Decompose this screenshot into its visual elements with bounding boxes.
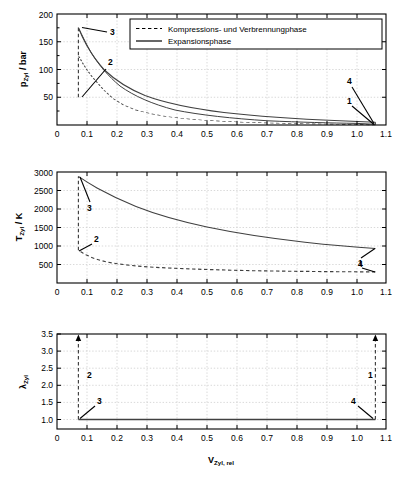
- svg-text:0.2: 0.2: [111, 129, 123, 139]
- svg-text:1: 1: [368, 370, 373, 380]
- svg-text:3: 3: [110, 27, 115, 37]
- annotation-2: 2: [87, 370, 92, 380]
- chart-panel-temperature: 500 1000 1500 2000 2500 3000 0 0.1 0.2 0…: [0, 160, 404, 318]
- chart-panel-lambda: 1.0 1.5 2.0 2.5 3.0 3.5 0 0.1 0.2 0.3 0.…: [0, 318, 404, 481]
- x-tick-labels: 0 0.1 0.2 0.3 0.4 0.5 0.6 0.7 0.8 0.9 1.…: [55, 433, 393, 443]
- svg-text:0.8: 0.8: [291, 433, 303, 443]
- svg-text:0.3: 0.3: [141, 433, 153, 443]
- svg-text:0.1: 0.1: [81, 433, 93, 443]
- svg-text:TZyl / K: TZyl / K: [14, 212, 25, 241]
- svg-text:λZyl: λZyl: [18, 375, 29, 389]
- annotation-3: 3: [80, 177, 92, 213]
- svg-text:1.0: 1.0: [351, 129, 363, 139]
- svg-text:1.1: 1.1: [380, 129, 392, 139]
- svg-text:3000: 3000: [34, 168, 53, 178]
- svg-text:0.7: 0.7: [261, 433, 273, 443]
- legend-label-0: Kompressions- und Verbrennungphase: [168, 25, 307, 34]
- svg-text:0.6: 0.6: [231, 433, 243, 443]
- svg-text:2.5: 2.5: [41, 363, 53, 373]
- svg-text:1.0: 1.0: [41, 415, 53, 425]
- svg-text:100: 100: [39, 65, 53, 75]
- svg-text:2500: 2500: [34, 186, 53, 196]
- svg-text:0.9: 0.9: [321, 129, 333, 139]
- lambda-chart-svg: 1.0 1.5 2.0 2.5 3.0 3.5 0 0.1 0.2 0.3 0.…: [0, 318, 404, 481]
- svg-text:0.2: 0.2: [111, 287, 123, 297]
- svg-text:0.5: 0.5: [201, 287, 213, 297]
- svg-text:1000: 1000: [34, 241, 53, 251]
- series-expansion: [78, 176, 375, 248]
- svg-text:50: 50: [44, 92, 54, 102]
- svg-text:0.9: 0.9: [321, 287, 333, 297]
- chart-panel-pressure: 50 100 150 200 0 0.1 0.2 0.3 0.4 0.5 0.6…: [0, 0, 404, 160]
- svg-text:3: 3: [97, 396, 102, 406]
- svg-text:pZyl / bar: pZyl / bar: [18, 51, 29, 87]
- svg-text:1: 1: [347, 96, 352, 106]
- plot-frame: [57, 334, 386, 429]
- annotation-1: 1: [358, 258, 375, 272]
- y-axis-label-pressure: pZyl / bar: [18, 51, 29, 87]
- svg-text:2000: 2000: [34, 204, 53, 214]
- svg-text:0: 0: [55, 129, 60, 139]
- svg-text:1.0: 1.0: [351, 287, 363, 297]
- svg-text:150: 150: [39, 37, 53, 47]
- x-axis-label: VZyl, rel: [208, 455, 234, 466]
- svg-text:0.5: 0.5: [201, 433, 213, 443]
- y-tick-labels: 500 1000 1500 2000 2500 3000: [34, 168, 53, 270]
- svg-text:0.1: 0.1: [81, 129, 93, 139]
- svg-text:500: 500: [39, 260, 53, 270]
- legend: Kompressions- und Verbrennungphase Expan…: [130, 19, 382, 49]
- pressure-chart-svg: 50 100 150 200 0 0.1 0.2 0.3 0.4 0.5 0.6…: [0, 0, 404, 160]
- y-axis-label-lambda: λZyl: [18, 375, 29, 389]
- y-tick-labels: 1.0 1.5 2.0 2.5 3.0 3.5: [41, 329, 53, 425]
- svg-text:0.6: 0.6: [231, 287, 243, 297]
- svg-text:1.1: 1.1: [380, 433, 392, 443]
- svg-text:0.2: 0.2: [111, 433, 123, 443]
- y-axis-label-temperature: TZyl / K: [14, 212, 25, 241]
- annotation-2: 2: [79, 234, 99, 251]
- svg-text:0.1: 0.1: [81, 287, 93, 297]
- svg-text:0.7: 0.7: [261, 287, 273, 297]
- svg-text:1.1: 1.1: [380, 287, 392, 297]
- svg-text:0.3: 0.3: [141, 287, 153, 297]
- svg-text:1.5: 1.5: [41, 397, 53, 407]
- svg-text:0: 0: [55, 287, 60, 297]
- svg-text:2: 2: [108, 57, 113, 67]
- svg-text:0.4: 0.4: [171, 433, 183, 443]
- svg-text:4: 4: [347, 76, 352, 86]
- svg-text:0.3: 0.3: [141, 129, 153, 139]
- svg-text:1500: 1500: [34, 223, 53, 233]
- svg-text:2.0: 2.0: [41, 380, 53, 390]
- series-compression-combustion: [76, 335, 379, 420]
- svg-text:0.9: 0.9: [321, 433, 333, 443]
- svg-text:3.0: 3.0: [41, 346, 53, 356]
- svg-text:2: 2: [87, 370, 92, 380]
- svg-text:1.0: 1.0: [351, 433, 363, 443]
- svg-text:0.8: 0.8: [291, 129, 303, 139]
- temperature-chart-svg: 500 1000 1500 2000 2500 3000 0 0.1 0.2 0…: [0, 160, 404, 318]
- svg-text:2: 2: [94, 234, 99, 244]
- engine-cycle-figure: 50 100 150 200 0 0.1 0.2 0.3 0.4 0.5 0.6…: [0, 0, 404, 481]
- svg-text:3.5: 3.5: [41, 329, 53, 339]
- annotation-3: 3: [80, 396, 102, 419]
- svg-text:3: 3: [87, 203, 92, 213]
- svg-text:0.6: 0.6: [231, 129, 243, 139]
- legend-label-1: Expansionsphase: [168, 37, 232, 46]
- svg-text:0: 0: [55, 433, 60, 443]
- svg-text:200: 200: [39, 10, 53, 20]
- x-tick-labels: 0 0.1 0.2 0.3 0.4 0.5 0.6 0.7 0.8 0.9 1.…: [55, 129, 393, 139]
- y-tick-labels: 50 100 150 200: [39, 10, 53, 103]
- svg-text:4: 4: [351, 396, 356, 406]
- svg-text:0.8: 0.8: [291, 287, 303, 297]
- annotation-4: 4: [351, 396, 373, 419]
- annotation-1: 1: [368, 370, 373, 380]
- svg-text:0.5: 0.5: [201, 129, 213, 139]
- axis-ticks: [57, 334, 386, 429]
- gridlines: [57, 334, 386, 429]
- annotation-3: 3: [82, 27, 115, 37]
- arrowhead-up-right: [373, 335, 379, 342]
- gridlines: [57, 172, 386, 283]
- svg-text:0.4: 0.4: [171, 287, 183, 297]
- svg-text:1: 1: [358, 258, 363, 268]
- x-tick-labels: 0 0.1 0.2 0.3 0.4 0.5 0.6 0.7 0.8 0.9 1.…: [55, 287, 393, 297]
- arrowhead-up-left: [76, 335, 82, 342]
